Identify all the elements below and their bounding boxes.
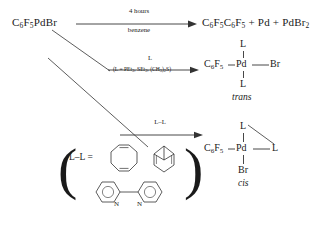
svg-text:N: N bbox=[114, 200, 119, 208]
cis-isomer-label: cis bbox=[238, 178, 249, 188]
ligand-LL-label: L–L bbox=[132, 118, 188, 125]
bidentate-ligand-prefix: L–L = bbox=[69, 152, 93, 162]
ligand-L-label: L bbox=[120, 54, 180, 61]
ligand-definition: (L = PEt3, SEt2, (CH3)2S) bbox=[86, 66, 198, 73]
thermal-products: C6F5C6F5 + Pd + PdBr2 bbox=[202, 16, 310, 30]
cis-bonds bbox=[204, 120, 314, 176]
bidentate-ligand-set: ( ) L–L = N N bbox=[58, 138, 194, 224]
condition-time: 4 hours bbox=[104, 7, 174, 14]
left-parenthesis: ( bbox=[58, 140, 77, 198]
svg-text:N: N bbox=[137, 200, 142, 208]
right-parenthesis: ) bbox=[184, 140, 203, 198]
cis-complex: L C6F5 Pd L Br bbox=[204, 120, 314, 176]
trans-bonds bbox=[204, 38, 314, 90]
trans-isomer-label: trans bbox=[232, 92, 252, 102]
cyclooctadiene-structure bbox=[106, 144, 142, 176]
reaction-scheme: C6F5PdBr 4 hours benzene C6F5C6F5 + Pd +… bbox=[0, 0, 328, 227]
norbornadiene-structure bbox=[148, 143, 180, 176]
bipyridine-structure: N N bbox=[88, 178, 176, 220]
trans-complex: L C6F5 Pd Br L bbox=[204, 38, 314, 90]
